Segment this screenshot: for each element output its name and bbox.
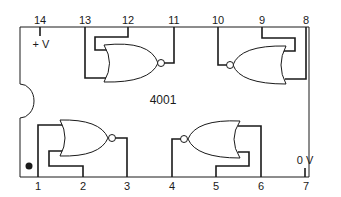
pin-9-label: 9 bbox=[259, 14, 265, 26]
vdd-label: + V bbox=[33, 38, 50, 50]
pin-13-label: 13 bbox=[79, 14, 91, 26]
pin1-marker-dot bbox=[26, 163, 33, 170]
nor-gate-b bbox=[172, 121, 261, 177]
pin-4-label: 4 bbox=[169, 180, 175, 192]
vss-label: 0 V bbox=[297, 154, 314, 166]
pin-6-label: 6 bbox=[258, 180, 264, 192]
pin-3-label: 3 bbox=[124, 180, 130, 192]
pin-5-label: 5 bbox=[213, 180, 219, 192]
pin-1-label: 1 bbox=[35, 180, 41, 192]
pin-12-label: 12 bbox=[122, 14, 134, 26]
pin-11-label: 11 bbox=[168, 14, 179, 26]
pin-10-label: 10 bbox=[212, 14, 224, 26]
part-number-label: 4001 bbox=[150, 93, 177, 107]
nor-gate-a bbox=[38, 120, 127, 177]
pin-2-label: 2 bbox=[80, 180, 86, 192]
pin-7-label: 7 bbox=[303, 180, 309, 192]
nor-gate-c bbox=[218, 27, 306, 84]
pin-14-label: 14 bbox=[34, 14, 46, 26]
ic-pinout-diagram: 4001 14 13 12 11 10 9 8 1 2 3 4 5 6 7 + … bbox=[0, 0, 341, 197]
pin-8-label: 8 bbox=[303, 14, 309, 26]
nor-gate-d bbox=[85, 27, 174, 82]
